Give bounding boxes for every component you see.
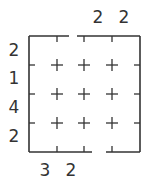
bottom-clue-1: 3 xyxy=(38,162,52,179)
grid-ticks xyxy=(29,36,140,152)
left-clue-1: 2 xyxy=(7,42,21,59)
bottom-clue-2: 2 xyxy=(64,162,78,179)
left-clue-4: 2 xyxy=(7,128,21,145)
top-clue-3: 2 xyxy=(91,9,105,26)
cross-marks xyxy=(51,59,118,129)
left-clue-2: 1 xyxy=(7,70,21,87)
left-clue-3: 4 xyxy=(7,99,21,116)
top-clue-4: 2 xyxy=(117,9,131,26)
